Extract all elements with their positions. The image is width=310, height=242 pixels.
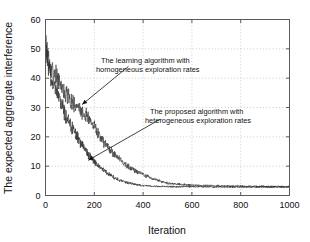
x-tick-label: 1000 <box>279 200 299 210</box>
annotation-heterogeneous: The proposed algorithm with heterogeneou… <box>145 107 251 125</box>
x-axis-title: Iteration <box>148 224 186 236</box>
annotation-homogeneous-line1: The learning algorithm with <box>101 56 190 65</box>
annotation-homogeneous-line2: homogeneous exploration rates <box>96 65 200 74</box>
y-axis-title: The expected aggregate interference <box>2 22 14 194</box>
y-tick-label: 40 <box>30 73 40 83</box>
chart-figure: 02004006008001000 0102030405060 Iteratio… <box>0 0 310 242</box>
y-tick-label: 60 <box>30 15 40 25</box>
annotation-heterogeneous-line2: heterogeneous exploration rates <box>145 116 251 125</box>
y-tick-label: 0 <box>35 191 40 201</box>
interference-convergence-chart: 02004006008001000 0102030405060 Iteratio… <box>0 0 310 242</box>
x-tick-label: 0 <box>43 200 48 210</box>
x-tick-label: 600 <box>184 200 199 210</box>
x-tick-label: 800 <box>233 200 248 210</box>
annotation-homogeneous: The learning algorithm with homogeneous … <box>96 56 200 74</box>
annotation-heterogeneous-line1: The proposed algorithm with <box>150 107 243 116</box>
x-tick-label: 200 <box>87 200 102 210</box>
y-tick-label: 50 <box>30 44 40 54</box>
x-tick-label: 400 <box>136 200 151 210</box>
y-tick-label: 20 <box>30 132 40 142</box>
y-tick-label: 10 <box>30 161 40 171</box>
y-tick-label: 30 <box>30 103 40 113</box>
